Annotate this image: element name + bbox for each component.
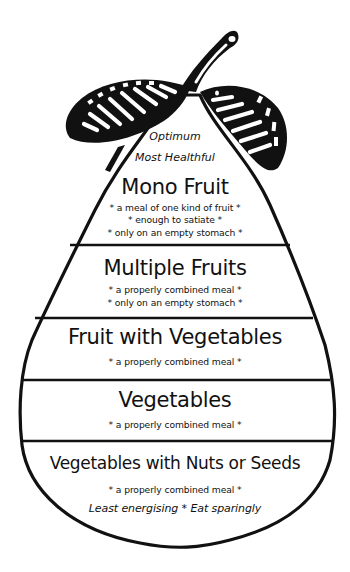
tier-note: * only on an empty stomach * xyxy=(0,297,350,308)
tier-note: * a properly combined meal * xyxy=(0,419,350,430)
tier-note: * a properly combined meal * xyxy=(0,284,350,295)
tier-note: * a meal of one kind of fruit * xyxy=(0,202,350,213)
tier-title: Fruit with Vegetables xyxy=(0,325,350,349)
pear-stem-icon xyxy=(180,31,239,92)
tier-title: Multiple Fruits xyxy=(0,256,350,280)
tier-title: Vegetables xyxy=(0,388,350,412)
tier-title: Vegetables with Nuts or Seeds xyxy=(0,453,350,473)
tier-note: * enough to satiate * xyxy=(0,214,350,225)
tier-note: * only on an empty stomach * xyxy=(0,227,350,238)
tier-note: * a properly combined meal * xyxy=(0,484,350,495)
tier-footer: Least energising * Eat sparingly xyxy=(0,502,350,515)
tier-note: * a properly combined meal * xyxy=(0,356,350,367)
label-optimum: Optimum xyxy=(0,130,350,143)
tier-title: Mono Fruit xyxy=(0,175,350,199)
label-most-healthful: Most Healthful xyxy=(0,151,350,164)
